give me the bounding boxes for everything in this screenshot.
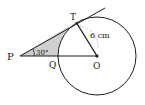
label-o: O (93, 61, 100, 71)
label-q: Q (49, 60, 56, 70)
label-angle: 30° (36, 49, 48, 57)
centre-dot (95, 54, 98, 57)
tangent-circle-diagram: P Q O T 6 cm 30° (0, 0, 145, 105)
label-t: T (70, 12, 76, 22)
label-p: P (7, 51, 14, 62)
label-radius: 6 cm (90, 31, 110, 40)
